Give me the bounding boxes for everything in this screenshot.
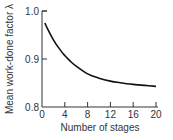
- x-tick-label: 12: [105, 109, 117, 120]
- data-line: [45, 23, 156, 86]
- y-axis-label: Mean work-done factor λ: [4, 4, 15, 114]
- x-tick-label: 8: [85, 109, 91, 120]
- axes: [42, 11, 158, 107]
- x-tick-label: 0: [39, 109, 45, 120]
- x-tick-label: 20: [150, 109, 162, 120]
- y-tick-label: 0.9: [25, 54, 39, 65]
- x-axis-label: Number of stages: [61, 122, 140, 133]
- y-tick-label: 1.0: [25, 6, 39, 17]
- y-ticks: 0.80.91.0: [25, 6, 47, 113]
- y-tick-label: 0.8: [25, 102, 39, 113]
- chart: 0.80.91.0 048121620 Number of stages Mea…: [0, 0, 173, 140]
- x-tick-label: 4: [62, 109, 68, 120]
- x-tick-label: 16: [128, 109, 140, 120]
- x-ticks: 048121620: [39, 102, 162, 120]
